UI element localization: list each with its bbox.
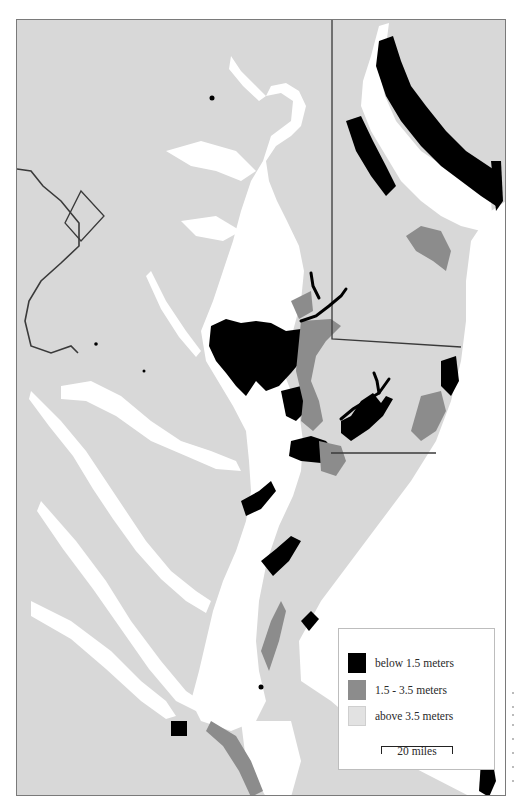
legend-label: 1.5 - 3.5 meters [375,684,447,696]
legend-swatch-black [348,653,366,673]
legend: below 1.5 meters 1.5 - 3.5 meters above … [338,628,495,770]
scale-label: 20 miles [381,745,453,757]
legend-swatch-gray [348,680,366,700]
legend-swatch-light-gray [348,706,366,726]
legend-item-below-1-5: below 1.5 meters [348,653,454,673]
legend-label: below 1.5 meters [375,657,454,669]
legend-item-above-3-5: above 3.5 meters [348,706,453,726]
map-frame: below 1.5 meters 1.5 - 3.5 meters above … [16,19,506,796]
side-caption-dots [508,680,518,795]
legend-label: above 3.5 meters [375,710,453,722]
legend-item-1-5-to-3-5: 1.5 - 3.5 meters [348,680,447,700]
